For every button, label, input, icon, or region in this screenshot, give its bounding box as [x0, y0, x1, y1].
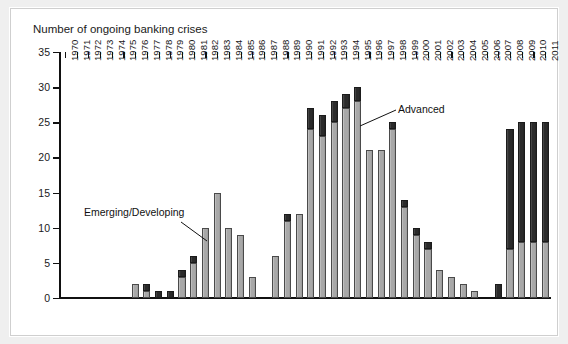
- x-tick-label: 2004: [467, 40, 478, 61]
- bar-group: [354, 87, 361, 298]
- bar-segment-advanced: [542, 122, 549, 241]
- y-tick-label: 0: [44, 292, 50, 304]
- bar-group: [190, 256, 197, 298]
- bar-segment-advanced: [413, 228, 420, 235]
- x-tick-mark: [463, 52, 464, 58]
- x-tick-label: 1976: [139, 40, 150, 61]
- bar-segment-emerging: [471, 291, 478, 298]
- x-tick-label: 1970: [69, 40, 80, 61]
- bar-segment-advanced: [495, 284, 502, 298]
- x-tick-label: 1996: [373, 40, 384, 61]
- y-tick-mark: [53, 193, 59, 194]
- bar-group: [424, 242, 431, 298]
- x-tick-mark: [405, 52, 406, 58]
- x-tick-label: 1983: [221, 40, 232, 61]
- bar-segment-emerging: [518, 242, 525, 298]
- x-tick-mark: [147, 52, 148, 58]
- x-tick-mark: [323, 52, 324, 58]
- x-tick-mark: [498, 52, 499, 58]
- x-tick-mark: [440, 52, 441, 58]
- x-tick-label: 1998: [397, 40, 408, 61]
- bar-segment-advanced: [319, 115, 326, 136]
- bar-segment-emerging: [366, 150, 373, 298]
- y-tick-mark: [53, 122, 59, 123]
- bar-segment-emerging: [284, 221, 291, 298]
- x-tick-label: 1973: [104, 40, 115, 61]
- x-tick-label: 1975: [127, 40, 138, 61]
- x-tick-label: 2009: [526, 40, 537, 61]
- x-tick-mark: [334, 52, 335, 58]
- bar-group: [167, 291, 174, 298]
- y-tick-mark: [53, 228, 59, 229]
- x-tick-mark: [88, 52, 89, 58]
- y-tick-label: 20: [38, 151, 50, 163]
- x-tick-label: 1995: [362, 40, 373, 61]
- bar-group: [436, 270, 443, 298]
- bar-group: [448, 277, 455, 298]
- bar-segment-emerging: [178, 277, 185, 298]
- bar-segment-emerging: [542, 242, 549, 298]
- bar-segment-emerging: [331, 122, 338, 298]
- bar-group: [155, 291, 162, 298]
- x-tick-mark: [381, 52, 382, 58]
- bar-group: [342, 94, 349, 298]
- bar-segment-advanced: [331, 101, 338, 122]
- x-tick-label: 1988: [280, 40, 291, 61]
- bar-segment-emerging: [307, 129, 314, 298]
- x-tick-label: 1990: [303, 40, 314, 61]
- bar-group: [506, 129, 513, 298]
- bar-group: [296, 214, 303, 298]
- x-tick-label: 1992: [327, 40, 338, 61]
- bar-group: [495, 284, 502, 298]
- x-tick-mark: [522, 52, 523, 58]
- x-tick-mark: [135, 52, 136, 58]
- x-tick-mark: [205, 52, 206, 58]
- x-tick-label: 2006: [491, 40, 502, 61]
- bar-group: [214, 193, 221, 298]
- bar-segment-emerging: [237, 235, 244, 298]
- annotation-advanced: Advanced: [398, 103, 445, 115]
- bar-segment-advanced: [167, 291, 174, 298]
- bar-group: [401, 200, 408, 298]
- x-tick-label: 1982: [209, 40, 220, 61]
- bar-segment-advanced: [284, 214, 291, 221]
- bar-group: [460, 284, 467, 298]
- x-tick-label: 1979: [174, 40, 185, 61]
- x-tick-label: 1980: [186, 40, 197, 61]
- x-tick-label: 1985: [245, 40, 256, 61]
- chart-title: Number of ongoing banking crises: [33, 23, 208, 35]
- x-tick-mark: [112, 52, 113, 58]
- bar-segment-emerging: [249, 277, 256, 298]
- y-tick-label: 10: [38, 222, 50, 234]
- bar-segment-emerging: [436, 270, 443, 298]
- x-tick-mark: [299, 52, 300, 58]
- x-tick-label: 2007: [502, 40, 513, 61]
- x-tick-label: 1971: [81, 40, 92, 61]
- bar-segment-advanced: [518, 122, 525, 241]
- y-tick-mark: [53, 298, 59, 299]
- bar-segment-emerging: [389, 129, 396, 298]
- y-tick-label: 30: [38, 81, 50, 93]
- y-tick-mark: [53, 263, 59, 264]
- x-tick-label: 1997: [385, 40, 396, 61]
- bar-segment-advanced: [389, 122, 396, 129]
- x-tick-label: 1989: [291, 40, 302, 61]
- bar-segment-advanced: [307, 108, 314, 129]
- y-tick-label: 5: [44, 257, 50, 269]
- x-tick-mark: [393, 52, 394, 58]
- x-tick-label: 1991: [315, 40, 326, 61]
- bar-segment-emerging: [143, 291, 150, 298]
- bar-segment-advanced: [143, 284, 150, 291]
- x-tick-mark: [100, 52, 101, 58]
- x-tick-mark: [346, 52, 347, 58]
- plot-area: 05101520253035 1970197119721973197419751…: [59, 52, 551, 298]
- bar-group: [389, 122, 396, 298]
- bar-group: [413, 228, 420, 298]
- x-tick-label: 2003: [455, 40, 466, 61]
- bar-group: [319, 115, 326, 298]
- bar-segment-emerging: [424, 249, 431, 298]
- x-tick-mark: [159, 52, 160, 58]
- y-tick-mark: [53, 157, 59, 158]
- x-tick-mark: [123, 52, 124, 58]
- x-tick-mark: [77, 52, 78, 58]
